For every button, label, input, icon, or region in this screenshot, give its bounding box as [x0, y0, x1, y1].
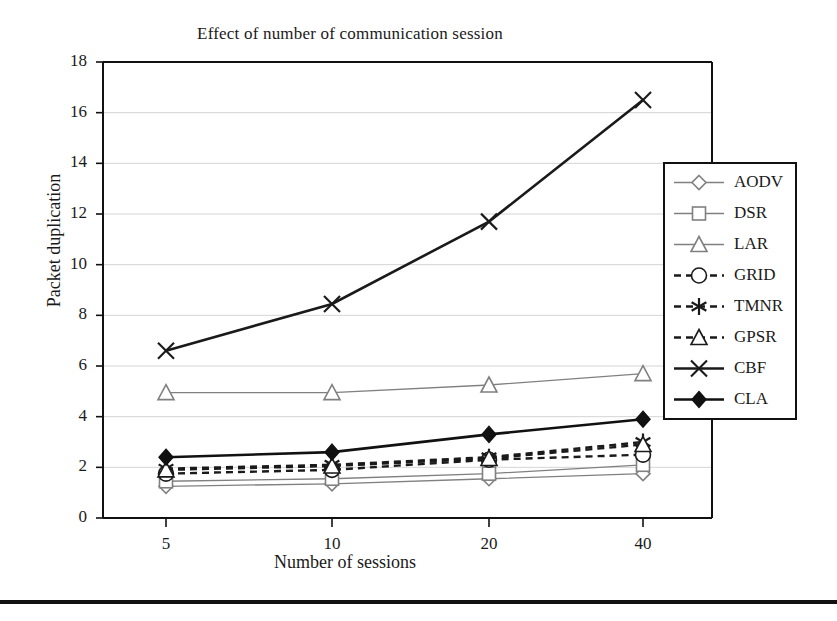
- y-tick-label: 10: [47, 254, 87, 274]
- y-tick-label: 16: [47, 102, 87, 122]
- y-tick-label: 6: [47, 355, 87, 375]
- legend-label-lar: LAR: [734, 234, 768, 254]
- x-tick-label: 40: [613, 534, 673, 554]
- x-axis-title: Number of sessions: [115, 552, 575, 573]
- x-tick-label: 5: [136, 534, 196, 554]
- y-tick-label: 14: [47, 152, 87, 172]
- legend-box: [664, 163, 796, 419]
- legend-label-tmnr: TMNR: [734, 296, 783, 316]
- y-tick-label: 18: [47, 51, 87, 71]
- legend-label-gpsr: GPSR: [734, 327, 777, 347]
- y-tick-label: 12: [47, 203, 87, 223]
- y-tick-label: 2: [47, 456, 87, 476]
- plot-canvas: [0, 0, 837, 621]
- series-cbf: [158, 92, 651, 359]
- series-lar: [158, 366, 651, 400]
- y-tick-label: 4: [47, 406, 87, 426]
- y-tick-label: 8: [47, 304, 87, 324]
- legend-label-dsr: DSR: [734, 203, 767, 223]
- legend-label-cbf: CBF: [734, 358, 766, 378]
- legend-label-aodv: AODV: [734, 172, 783, 192]
- legend-label-cla: CLA: [734, 389, 768, 409]
- chart-figure: Effect of number of communication sessio…: [0, 0, 837, 621]
- x-tick-label: 10: [302, 534, 362, 554]
- y-axis-title: Packet duplication: [44, 91, 65, 391]
- legend-label-grid: GRID: [734, 265, 776, 285]
- x-tick-label: 20: [459, 534, 519, 554]
- y-tick-label: 0: [47, 507, 87, 527]
- footer-rule: [0, 600, 837, 604]
- chart-title: Effect of number of communication sessio…: [0, 24, 700, 44]
